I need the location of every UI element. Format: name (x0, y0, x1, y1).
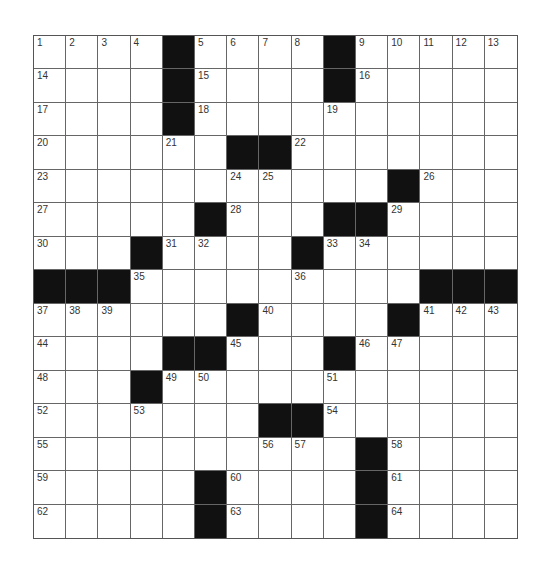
crossword-cell[interactable] (453, 371, 485, 404)
crossword-cell[interactable]: 12 (453, 36, 485, 69)
crossword-cell[interactable] (420, 438, 452, 471)
crossword-cell[interactable] (453, 337, 485, 370)
crossword-cell[interactable] (259, 103, 291, 136)
crossword-cell[interactable] (163, 203, 195, 236)
crossword-cell[interactable]: 31 (163, 237, 195, 270)
crossword-cell[interactable] (324, 270, 356, 303)
crossword-cell[interactable] (66, 337, 98, 370)
crossword-cell[interactable] (292, 203, 324, 236)
crossword-cell[interactable]: 3 (98, 36, 130, 69)
crossword-cell[interactable] (356, 170, 388, 203)
crossword-cell[interactable] (131, 170, 163, 203)
crossword-cell[interactable]: 17 (34, 103, 66, 136)
crossword-cell[interactable] (195, 136, 227, 169)
crossword-cell[interactable] (453, 237, 485, 270)
crossword-cell[interactable]: 47 (388, 337, 420, 370)
crossword-cell[interactable] (453, 471, 485, 504)
crossword-cell[interactable] (485, 69, 517, 102)
crossword-cell[interactable]: 1 (34, 36, 66, 69)
crossword-cell[interactable] (98, 170, 130, 203)
crossword-cell[interactable]: 27 (34, 203, 66, 236)
crossword-cell[interactable]: 38 (66, 304, 98, 337)
crossword-cell[interactable] (98, 438, 130, 471)
crossword-cell[interactable] (453, 203, 485, 236)
crossword-cell[interactable] (98, 471, 130, 504)
crossword-cell[interactable] (259, 337, 291, 370)
crossword-cell[interactable] (163, 170, 195, 203)
crossword-cell[interactable] (227, 371, 259, 404)
crossword-cell[interactable]: 15 (195, 69, 227, 102)
crossword-cell[interactable]: 8 (292, 36, 324, 69)
crossword-cell[interactable] (420, 136, 452, 169)
crossword-cell[interactable] (420, 371, 452, 404)
crossword-cell[interactable] (98, 136, 130, 169)
crossword-cell[interactable] (66, 438, 98, 471)
crossword-cell[interactable]: 42 (453, 304, 485, 337)
crossword-cell[interactable] (195, 304, 227, 337)
crossword-cell[interactable]: 53 (131, 404, 163, 437)
crossword-cell[interactable] (227, 438, 259, 471)
crossword-cell[interactable] (356, 371, 388, 404)
crossword-cell[interactable]: 9 (356, 36, 388, 69)
crossword-cell[interactable]: 30 (34, 237, 66, 270)
crossword-cell[interactable] (227, 237, 259, 270)
crossword-cell[interactable] (324, 438, 356, 471)
crossword-cell[interactable] (453, 505, 485, 538)
crossword-cell[interactable] (485, 371, 517, 404)
crossword-cell[interactable] (420, 103, 452, 136)
crossword-cell[interactable] (356, 270, 388, 303)
crossword-cell[interactable] (195, 404, 227, 437)
crossword-cell[interactable]: 5 (195, 36, 227, 69)
crossword-cell[interactable] (98, 337, 130, 370)
crossword-cell[interactable]: 64 (388, 505, 420, 538)
crossword-cell[interactable] (388, 237, 420, 270)
crossword-cell[interactable] (388, 69, 420, 102)
crossword-cell[interactable] (324, 170, 356, 203)
crossword-cell[interactable]: 24 (227, 170, 259, 203)
crossword-cell[interactable] (98, 69, 130, 102)
crossword-cell[interactable] (259, 69, 291, 102)
crossword-cell[interactable] (388, 103, 420, 136)
crossword-cell[interactable]: 60 (227, 471, 259, 504)
crossword-cell[interactable]: 23 (34, 170, 66, 203)
crossword-cell[interactable] (420, 471, 452, 504)
crossword-cell[interactable]: 51 (324, 371, 356, 404)
crossword-cell[interactable] (292, 304, 324, 337)
crossword-cell[interactable] (485, 103, 517, 136)
crossword-cell[interactable]: 61 (388, 471, 420, 504)
crossword-cell[interactable]: 59 (34, 471, 66, 504)
crossword-cell[interactable] (98, 371, 130, 404)
crossword-cell[interactable] (420, 404, 452, 437)
crossword-cell[interactable] (292, 170, 324, 203)
crossword-cell[interactable]: 63 (227, 505, 259, 538)
crossword-cell[interactable]: 32 (195, 237, 227, 270)
crossword-cell[interactable] (356, 103, 388, 136)
crossword-cell[interactable] (453, 170, 485, 203)
crossword-cell[interactable]: 7 (259, 36, 291, 69)
crossword-cell[interactable] (259, 237, 291, 270)
crossword-cell[interactable]: 18 (195, 103, 227, 136)
crossword-cell[interactable]: 19 (324, 103, 356, 136)
crossword-cell[interactable] (453, 438, 485, 471)
crossword-cell[interactable] (259, 505, 291, 538)
crossword-cell[interactable]: 16 (356, 69, 388, 102)
crossword-cell[interactable] (292, 505, 324, 538)
crossword-cell[interactable] (259, 270, 291, 303)
crossword-cell[interactable] (131, 136, 163, 169)
crossword-cell[interactable] (420, 237, 452, 270)
crossword-cell[interactable] (131, 471, 163, 504)
crossword-cell[interactable]: 41 (420, 304, 452, 337)
crossword-cell[interactable] (292, 471, 324, 504)
crossword-cell[interactable] (98, 103, 130, 136)
crossword-cell[interactable] (485, 505, 517, 538)
crossword-cell[interactable] (66, 203, 98, 236)
crossword-cell[interactable] (195, 270, 227, 303)
crossword-cell[interactable] (66, 371, 98, 404)
crossword-cell[interactable] (259, 371, 291, 404)
crossword-cell[interactable]: 50 (195, 371, 227, 404)
crossword-cell[interactable]: 48 (34, 371, 66, 404)
crossword-cell[interactable] (98, 404, 130, 437)
crossword-cell[interactable]: 29 (388, 203, 420, 236)
crossword-cell[interactable] (292, 69, 324, 102)
crossword-cell[interactable]: 57 (292, 438, 324, 471)
